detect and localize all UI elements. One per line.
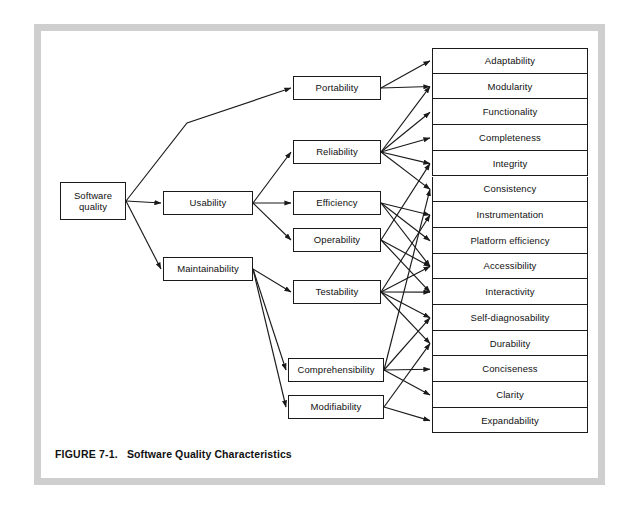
- edge-software-quality-to-portability: [126, 88, 291, 201]
- node-label: Software quality: [74, 190, 112, 212]
- figure-title: Software Quality Characteristics: [127, 448, 292, 460]
- edge-reliability-to-modularity: [381, 87, 430, 152]
- edge-software-quality-to-usability: [126, 201, 161, 203]
- edge-software-quality-to-maintainability: [126, 201, 161, 269]
- node-operability[interactable]: Operability: [293, 228, 381, 252]
- metric-modularity[interactable]: Modularity: [432, 74, 588, 100]
- node-label-line1: Software: [74, 190, 112, 201]
- edge-comprehensibility-to-clarity: [384, 370, 430, 395]
- metric-expandability[interactable]: Expandability: [432, 408, 588, 434]
- edge-maintainability-to-testability: [253, 269, 291, 292]
- edge-testability-to-self-diagnosability: [381, 292, 430, 318]
- metric-platform-efficiency[interactable]: Platform efficiency: [432, 228, 588, 254]
- node-usability[interactable]: Usability: [163, 191, 253, 215]
- figure-page: Software quality Usability Maintainabili…: [0, 0, 638, 507]
- metric-adaptability[interactable]: Adaptability: [432, 48, 588, 74]
- edge-comprehensibility-to-conciseness: [384, 369, 430, 370]
- metric-consistency[interactable]: Consistency: [432, 177, 588, 203]
- edge-maintainability-to-comprehensibility: [253, 269, 286, 370]
- edge-operability-to-integrity: [381, 164, 430, 240]
- metric-clarity[interactable]: Clarity: [432, 382, 588, 408]
- node-modifiability[interactable]: Modifiability: [288, 395, 384, 419]
- metric-functionality[interactable]: Functionality: [432, 99, 588, 125]
- edge-testability-to-durability: [381, 292, 430, 344]
- node-portability[interactable]: Portability: [293, 76, 381, 100]
- node-software-quality[interactable]: Software quality: [60, 182, 126, 220]
- edge-reliability-to-functionality: [381, 112, 430, 152]
- figure-number: FIGURE 7-1.: [55, 448, 118, 460]
- metric-accessibility[interactable]: Accessibility: [432, 254, 588, 280]
- node-reliability[interactable]: Reliability: [293, 140, 381, 164]
- metric-durability[interactable]: Durability: [432, 331, 588, 357]
- edge-modifiability-to-durability: [384, 344, 430, 407]
- node-label-line2: quality: [79, 201, 107, 212]
- node-maintainability[interactable]: Maintainability: [163, 257, 253, 281]
- metric-conciseness[interactable]: Conciseness: [432, 356, 588, 382]
- edge-testability-to-instrumentation: [381, 215, 430, 292]
- metric-self-diagnosability[interactable]: Self-diagnosability: [432, 305, 588, 331]
- metric-completeness[interactable]: Completeness: [432, 125, 588, 151]
- edge-usability-to-reliability: [253, 152, 291, 203]
- figure-caption: FIGURE 7-1. Software Quality Characteris…: [55, 448, 292, 460]
- edge-maintainability-to-modifiability: [253, 269, 286, 407]
- metric-interactivity[interactable]: Interactivity: [432, 279, 588, 305]
- edge-usability-to-operability: [253, 203, 291, 240]
- node-efficiency[interactable]: Efficiency: [293, 191, 381, 215]
- edge-portability-to-adaptability: [381, 61, 430, 88]
- edge-reliability-to-completeness: [381, 138, 430, 152]
- node-testability[interactable]: Testability: [293, 280, 381, 304]
- metric-integrity[interactable]: Integrity: [432, 151, 588, 177]
- node-comprehensibility[interactable]: Comprehensibility: [288, 358, 384, 382]
- edge-testability-to-accessibility: [381, 266, 430, 292]
- metric-instrumentation[interactable]: Instrumentation: [432, 202, 588, 228]
- edge-portability-to-modularity: [381, 87, 430, 88]
- edge-modifiability-to-expandability: [384, 407, 430, 421]
